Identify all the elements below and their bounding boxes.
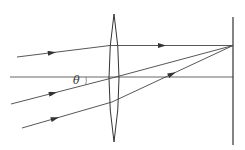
- angle-theta-label: θ: [73, 75, 80, 86]
- ray-bottom-incident: [22, 102, 112, 128]
- ray-top-incident: [17, 46, 110, 58]
- diagram-svg: [0, 0, 245, 150]
- lens-ray-diagram: θ: [0, 0, 245, 150]
- ray-middle-incident: [11, 78, 112, 104]
- ray-bottom-refracted: [112, 46, 233, 103]
- angle-arc: [86, 77, 87, 85]
- ray-middle-refracted: [112, 46, 233, 79]
